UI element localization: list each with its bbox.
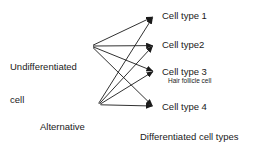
edge-alt-to-celltype2	[99, 46, 152, 104]
diagram-canvas: Undifferentiated cell Alternative determ…	[0, 0, 253, 152]
source-label-alternative-pathways: Alternative determination pathways	[40, 99, 98, 152]
target-label-cell-type-1: Cell type 1	[162, 10, 207, 21]
edge-undiff-to-celltype3	[93, 47, 153, 71]
source-undifferentiated-line1: Undifferentiated	[10, 61, 77, 72]
target-label-cell-type-3: Cell type 3	[162, 66, 207, 77]
target-label-cell-type-2: Cell type2	[162, 39, 204, 50]
target-label-cell-type-4: Cell type 4	[162, 101, 207, 112]
target-sublabel-hair-follicle-cell: Hair follicle cell	[168, 77, 211, 85]
source-alternative-line1: Alternative	[40, 121, 98, 132]
footer-caption-differentiated-cell-types: Differentiated cell types	[140, 131, 239, 142]
edge-alt-to-celltype4	[101, 105, 153, 106]
